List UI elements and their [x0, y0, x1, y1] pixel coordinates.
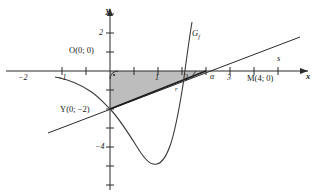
x-tick-label--2: −2 [18, 74, 27, 82]
x-axis-label: x [306, 72, 310, 81]
secant-label-s: s [277, 54, 280, 63]
angle-label-alpha: α [210, 73, 214, 81]
y-axis-label: y [106, 6, 110, 15]
x-tick-label--1: −1 [57, 74, 66, 82]
region-label-r: r [175, 86, 178, 93]
x-tick-label-2: 2 [184, 74, 188, 82]
plot-canvas [0, 0, 322, 196]
curve-label-gf-sub: f [198, 34, 200, 40]
origin-label: O(0; 0) [69, 46, 94, 55]
curve-label-gf: Gf [192, 29, 200, 40]
point-label-Y: Y(0; −2) [60, 105, 90, 114]
point-label-M: M(4; 0) [247, 74, 273, 83]
y-tick-label--4: −4 [95, 143, 104, 151]
y-tick-label-2: 2 [99, 29, 103, 37]
x-tick-label-3: 3 [227, 74, 231, 82]
x-tick-label-1: 1 [155, 74, 159, 82]
math-figure: y x O(0; 0) −2 −1 1 2 3 2 −4 Y(0; −2) M(… [0, 0, 322, 196]
